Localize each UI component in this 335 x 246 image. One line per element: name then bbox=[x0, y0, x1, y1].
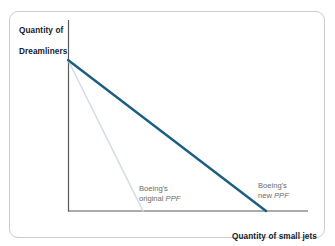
new-ppf-label-abbr: PPF bbox=[274, 191, 289, 200]
figure-root: Quantity of Dreamliners Quantity of smal… bbox=[0, 0, 335, 246]
original-ppf-label-prefix: original bbox=[139, 194, 166, 203]
y-axis-label: Quantity of Dreamliners bbox=[19, 15, 79, 68]
original-ppf-label: Boeing's original PPF bbox=[139, 184, 211, 203]
x-axis-label: Quantity of small jets bbox=[232, 221, 332, 246]
original-ppf-label-line2: original PPF bbox=[139, 194, 211, 204]
new-ppf-label-line1: Boeing's bbox=[258, 181, 328, 191]
y-axis-label-line1: Quantity of bbox=[19, 26, 79, 37]
new-ppf-label-line2: new PPF bbox=[258, 191, 328, 201]
original-ppf-label-line1: Boeing's bbox=[139, 184, 211, 194]
new-ppf-label: Boeing's new PPF bbox=[258, 181, 328, 200]
x-axis-label-text: Quantity of small jets bbox=[232, 232, 332, 243]
y-axis-label-line2: Dreamliners bbox=[19, 47, 79, 58]
new-ppf-label-prefix: new bbox=[258, 191, 274, 200]
original-ppf-label-abbr: PPF bbox=[166, 194, 181, 203]
original-ppf-line bbox=[68, 60, 143, 211]
